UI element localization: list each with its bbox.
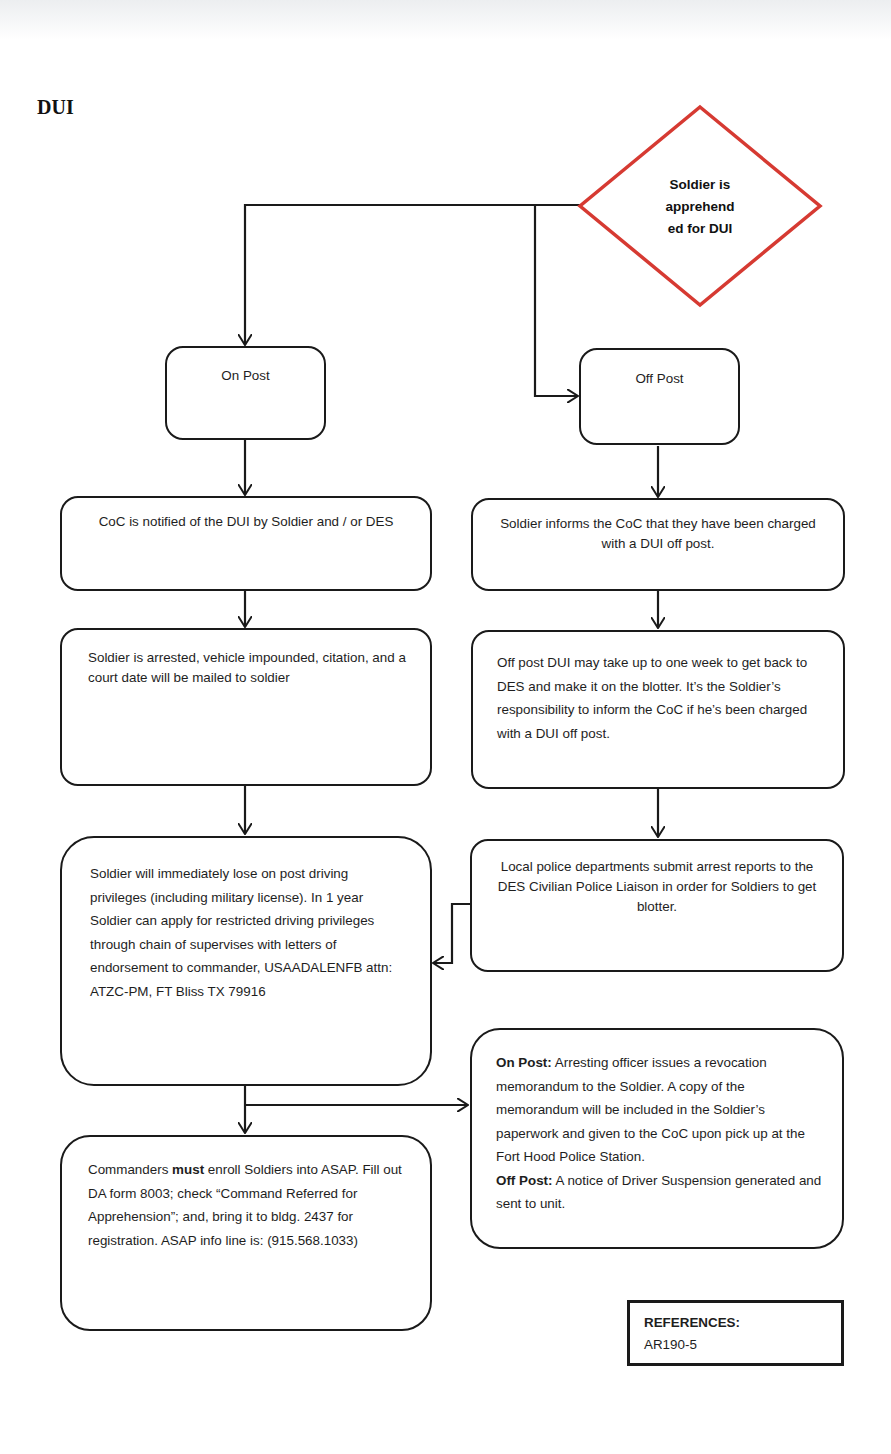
off-post-step-inform-coc: Soldier informs the CoC that they have b… xyxy=(471,498,845,591)
reference-item: AR190-5 xyxy=(644,1334,841,1356)
on-post-step-coc-notified: CoC is notified of the DUI by Soldier an… xyxy=(60,496,432,591)
off-post-node: Off Post xyxy=(579,348,740,445)
on-post-step-arrest: Soldier is arrested, vehicle impounded, … xyxy=(60,628,432,786)
references-box: REFERENCES: AR190-5 xyxy=(627,1300,844,1366)
revocation-node: On Post: Arresting officer issues a revo… xyxy=(470,1028,844,1249)
connector-decision-to-on-post xyxy=(245,205,580,345)
decision-label: Soldier is apprehend ed for DUI xyxy=(640,174,760,240)
connector-liaison-to-privileges xyxy=(433,904,470,963)
off-post-step-blotter-delay: Off post DUI may take up to one week to … xyxy=(471,630,845,789)
on-post-node: On Post xyxy=(165,346,326,440)
references-heading: REFERENCES: xyxy=(644,1312,841,1334)
off-post-step-police-liaison: Local police departments submit arrest r… xyxy=(470,839,844,972)
on-post-step-privileges: Soldier will immediately lose on post dr… xyxy=(60,836,432,1086)
on-post-step-asap: Commanders must enroll Soldiers into ASA… xyxy=(60,1135,432,1331)
connector-decision-to-off-post xyxy=(535,205,578,396)
